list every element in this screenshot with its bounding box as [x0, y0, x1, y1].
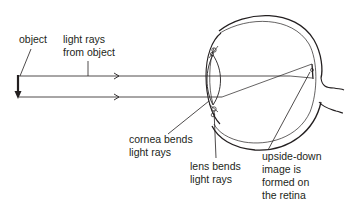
light-ray-top — [19, 73, 290, 79]
refracted-ray-upper — [290, 76, 312, 78]
optic-nerve — [321, 78, 344, 90]
retina-image-icon — [310, 64, 313, 79]
label-image-line4: the retina — [262, 189, 306, 201]
eye-diagram: object light rays from object cornea ben… — [0, 0, 346, 202]
label-object: object — [19, 33, 47, 45]
object-leader — [20, 49, 31, 76]
label-light-rays-line2: from object — [63, 46, 115, 58]
cornea-leader — [168, 101, 209, 134]
lens — [207, 55, 221, 105]
refracted-ray-lower — [222, 64, 312, 97]
cornea — [206, 33, 221, 124]
label-cornea-line1: cornea bends — [129, 133, 193, 145]
label-cornea-line2: light rays — [129, 146, 171, 158]
label-lens-line2: light rays — [190, 173, 232, 185]
light-ray-bottom — [19, 94, 222, 100]
label-light-rays-line1: light rays — [63, 33, 105, 45]
label-image-line3: formed on — [262, 176, 309, 188]
label-lens-line1: lens bends — [190, 160, 241, 172]
retina-leader — [268, 72, 310, 150]
optic-nerve-lower — [319, 102, 343, 113]
label-image-line1: upside-down — [262, 150, 322, 162]
retina — [214, 21, 316, 143]
sclera-outer — [212, 16, 322, 151]
label-image-line2: image is — [262, 163, 301, 175]
object-arrow-icon — [15, 75, 22, 99]
